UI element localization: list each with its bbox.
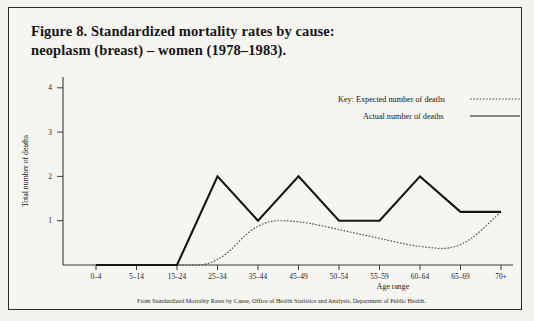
y-tick-label: 2: [48, 172, 52, 181]
y-axis-title: Total number of deaths: [21, 135, 30, 207]
expected-deaths-line: [96, 212, 501, 265]
x-tick-label: 25–34: [208, 272, 227, 281]
x-tick-label: 0–4: [90, 272, 101, 281]
legend-actual-label: Actual number of deaths: [363, 112, 444, 121]
x-tick-label: 15–24: [168, 272, 187, 281]
x-tick-label: 5–14: [129, 272, 144, 281]
x-tick-label: 55–59: [370, 272, 389, 281]
x-tick-label: 45–49: [289, 272, 308, 281]
mortality-line-chart: 1234 Total number of deaths 0–45–1415–24…: [8, 7, 522, 310]
x-axis-title: Age range: [377, 282, 410, 291]
legend-expected-label: Key: Expected number of deaths: [338, 95, 445, 104]
x-tick-label: 60–64: [411, 272, 430, 281]
chart-legend: Key: Expected number of deaths Actual nu…: [338, 95, 520, 121]
x-tick-label: 65–69: [451, 272, 470, 281]
actual-deaths-line: [96, 176, 501, 265]
chart-plot-area: 1234 Total number of deaths 0–45–1415–24…: [8, 7, 522, 310]
x-axis: 0–45–1415–2425–3435–4445–4950–5455–5960–…: [63, 265, 513, 291]
x-tick-label: 70+: [495, 272, 507, 281]
y-tick-label: 3: [48, 128, 52, 137]
y-axis: 1234 Total number of deaths: [21, 77, 63, 265]
x-tick-label: 35–44: [249, 272, 268, 281]
data-series-group: [96, 176, 501, 265]
x-tick-group: 0–45–1415–2425–3435–4445–4950–5455–5960–…: [90, 265, 506, 281]
y-tick-label: 1: [48, 216, 52, 225]
y-tick-label: 4: [48, 83, 52, 92]
y-tick-group: 1234: [48, 83, 63, 225]
x-tick-label: 50–54: [330, 272, 349, 281]
